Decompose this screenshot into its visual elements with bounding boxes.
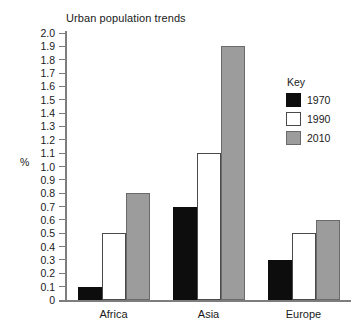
y-axis-tick-label: 0.1 <box>29 282 55 293</box>
bar-europe-1990 <box>292 233 316 300</box>
y-axis-tick-label: 1.9 <box>29 41 55 52</box>
y-axis-tick-label: 1.7 <box>29 68 55 79</box>
y-axis-tick-label: 1.8 <box>29 55 55 66</box>
y-axis-tick-label: 0.8 <box>29 188 55 199</box>
y-axis-tick-label: 0.6 <box>29 215 55 226</box>
legend-label-1970: 1970 <box>307 94 330 106</box>
y-axis-tick-label: 0.4 <box>29 242 55 253</box>
y-axis-tick-label: 1.4 <box>29 108 55 119</box>
bar-chart: Urban population trends % 2.01.91.81.71.… <box>0 0 358 332</box>
x-axis-label-europe: Europe <box>256 308 351 320</box>
bar-europe-2010 <box>316 220 340 300</box>
bar-africa-2010 <box>126 193 150 300</box>
bar-asia-1990 <box>197 153 221 300</box>
bar-africa-1970 <box>78 287 102 300</box>
y-axis-tick-label: 0 <box>29 295 55 306</box>
bar-europe-1970 <box>268 260 292 300</box>
legend-label-2010: 2010 <box>307 132 330 144</box>
bar-africa-1990 <box>102 233 126 300</box>
y-axis-tick-label: 0.2 <box>29 268 55 279</box>
y-axis-tick-label: 0.3 <box>29 255 55 266</box>
legend-label-1990: 1990 <box>307 113 330 125</box>
y-axis-tick-label: 0.7 <box>29 202 55 213</box>
y-axis-tick-label: 2.0 <box>29 28 55 39</box>
y-axis-tick-label: 0.5 <box>29 228 55 239</box>
bars-layer <box>66 33 351 300</box>
legend-item-2010: 2010 <box>286 129 358 147</box>
y-axis-tick-label: 1.0 <box>29 162 55 173</box>
x-axis-label-asia: Asia <box>161 308 256 320</box>
y-axis-tick-labels: 2.01.91.81.71.61.51.41.31.21.11.00.90.80… <box>29 0 55 332</box>
legend-swatch-1970 <box>286 93 301 107</box>
y-axis-tick-label: 0.9 <box>29 175 55 186</box>
legend-item-1990: 1990 <box>286 110 358 128</box>
y-axis-tick-label: 1.6 <box>29 81 55 92</box>
legend-swatch-1990 <box>286 112 301 126</box>
legend-title: Key <box>286 76 358 88</box>
bar-asia-2010 <box>221 46 245 300</box>
y-axis-label: % <box>20 156 29 168</box>
y-axis-tick-label: 1.5 <box>29 95 55 106</box>
y-axis-tick-label: 1.2 <box>29 135 55 146</box>
chart-legend: Key 197019902010 <box>286 76 358 148</box>
y-axis-tick-label: 1.1 <box>29 148 55 159</box>
legend-item-1970: 1970 <box>286 91 358 109</box>
bar-asia-1970 <box>173 207 197 300</box>
y-axis-tick-label: 1.3 <box>29 121 55 132</box>
legend-swatch-2010 <box>286 131 301 145</box>
x-axis-label-africa: Africa <box>66 308 161 320</box>
legend-rows: 197019902010 <box>286 91 358 147</box>
chart-title: Urban population trends <box>66 12 186 24</box>
x-axis-line <box>59 300 351 302</box>
